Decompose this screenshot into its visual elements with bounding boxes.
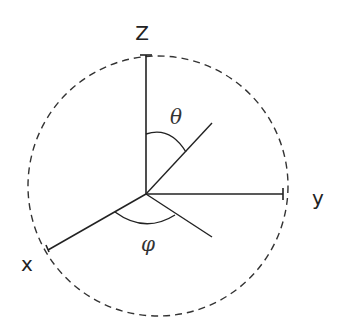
phi-arc [115,212,175,224]
theta-arc [146,132,186,152]
spherical-coordinates-diagram: Z y x θ φ [0,0,345,334]
x-axis-label: x [21,252,33,276]
projection-line [146,194,212,237]
radial-vector [146,123,212,194]
sphere-outline [28,56,288,316]
theta-label: θ [170,105,182,129]
phi-label: φ [141,232,155,256]
x-axis-tick [46,245,49,252]
y-axis-label: y [312,186,324,210]
z-axis-label: Z [135,21,149,45]
x-axis [48,194,146,250]
